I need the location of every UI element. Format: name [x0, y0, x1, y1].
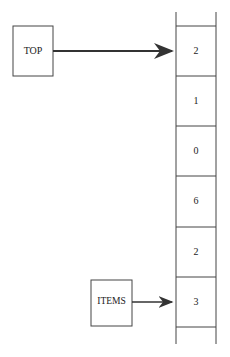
- stack-cell-value: 6: [176, 195, 216, 206]
- stack-cell-value: 3: [176, 296, 216, 307]
- top-pointer-label: TOP: [13, 45, 53, 56]
- stack-cell-value: 2: [176, 246, 216, 257]
- stack-cell-value: 0: [176, 145, 216, 156]
- stack-cell-value: 1: [176, 95, 216, 106]
- stack-cell-value: 2: [176, 45, 216, 56]
- items-pointer-label: ITEMS: [91, 296, 132, 306]
